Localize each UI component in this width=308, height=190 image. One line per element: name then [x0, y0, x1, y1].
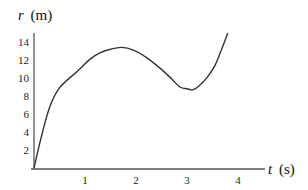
- y-tick-label: 4: [24, 126, 30, 138]
- y-axis-unit: (m): [31, 7, 53, 24]
- y-tick-labels: 2468101214: [18, 36, 30, 156]
- y-axis-label: r (m): [18, 7, 52, 24]
- y-tick-label: 10: [18, 72, 30, 84]
- y-tick-label: 2: [24, 144, 30, 156]
- y-tick-label: 14: [18, 36, 30, 48]
- x-tick-label: 4: [235, 174, 241, 186]
- x-tick-label: 3: [184, 174, 190, 186]
- y-axis: 2468101214 r (m): [18, 7, 52, 169]
- x-axis-label: t (s): [268, 161, 295, 178]
- x-tick-label: 2: [133, 174, 139, 186]
- position-time-chart: 2468101214 r (m) 1234 t (s): [0, 0, 308, 190]
- y-tick-label: 12: [18, 54, 29, 66]
- x-axis-unit: (s): [279, 161, 295, 178]
- x-axis: 1234 t (s): [31, 161, 295, 186]
- x-tick-labels: 1234: [82, 174, 241, 186]
- x-axis-variable: t: [268, 161, 273, 177]
- y-tick-label: 6: [24, 108, 30, 120]
- x-tick-label: 1: [82, 174, 88, 186]
- y-axis-variable: r: [18, 7, 24, 23]
- position-curve: [34, 33, 228, 168]
- y-tick-label: 8: [24, 90, 30, 102]
